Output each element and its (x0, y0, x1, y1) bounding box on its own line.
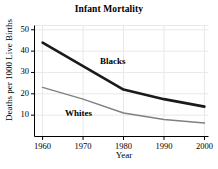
x-tick-label: 2000 (187, 142, 218, 151)
y-tick-label: 30 (7, 67, 29, 76)
axis-lines (35, 26, 209, 137)
chart-figure: Infant Mortality Deaths per 1000 Live Bi… (0, 0, 218, 169)
y-tick-label: 50 (7, 25, 29, 34)
x-tick-label: 1990 (147, 142, 181, 151)
series-label-whites: Whites (65, 108, 92, 118)
x-tick-label: 1970 (66, 142, 100, 151)
y-tick-label: 40 (7, 46, 29, 55)
x-tick-label: 1980 (107, 142, 141, 151)
y-tick-label: 20 (7, 89, 29, 98)
series-label-blacks: Blacks (100, 56, 126, 66)
gridlines (35, 26, 209, 137)
x-tick-label: 1960 (26, 142, 60, 151)
y-tick-label: 10 (7, 110, 29, 119)
